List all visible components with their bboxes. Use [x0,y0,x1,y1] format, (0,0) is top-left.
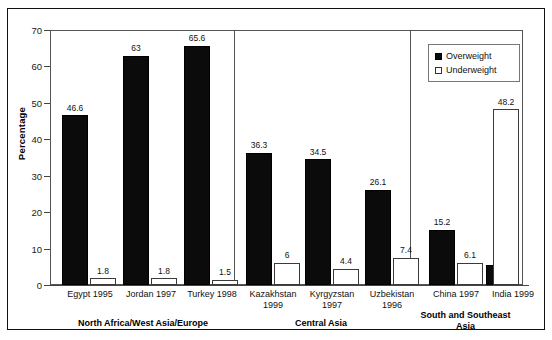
y-tick-label-20: 20 [16,208,42,218]
bar-value-overweight-turkey-1998: 65.6 [177,34,217,43]
bar-value-underweight-kyrgyzstan-1997: 4.4 [326,257,366,266]
x-axis-line [44,285,529,286]
bar-underweight-india-1999 [493,109,519,285]
legend-label-underweight: Underweight [446,66,497,75]
bar-value-overweight-uzbekistan-1996: 26.1 [358,178,398,187]
legend-swatch-underweight-icon [435,67,442,74]
bar-value-underweight-jordan-1997: 1.8 [144,267,184,276]
bar-value-overweight-kyrgyzstan-1997: 34.5 [298,148,338,157]
y-tick-label-70: 70 [16,26,42,36]
bar-underweight-egypt-1995 [90,278,116,285]
bar-value-underweight-india-1999: 48.2 [486,98,526,107]
bar-underweight-turkey-1998 [212,280,238,286]
legend-item-overweight: Overweight [435,49,513,63]
bar-value-underweight-turkey-1998: 1.5 [205,268,245,277]
bar-underweight-jordan-1997 [151,278,177,285]
bar-overweight-jordan-1997 [123,56,149,286]
group-label-line2: Asia [398,321,533,332]
y-axis-title: Percentage [16,89,27,179]
bar-value-underweight-uzbekistan-1996: 7.4 [386,246,426,255]
bar-underweight-china-1997 [457,263,483,285]
legend-swatch-overweight-icon [435,53,442,60]
bar-value-overweight-kazakhstan-1999: 36.3 [239,141,279,150]
y-tick-label-10: 10 [16,245,42,255]
panel-divider-1 [234,31,235,284]
chart-figure: 70 60 50 40 30 20 10 0 Percentage 46.6 1… [0,0,552,340]
bar-overweight-kazakhstan-1999 [246,153,272,285]
group-label-south-and-southeast-asia: South and Southeast Asia [398,310,533,332]
bar-value-overweight-jordan-1997: 63 [116,44,156,53]
bar-underweight-kazakhstan-1999 [274,263,300,285]
legend-label-overweight: Overweight [446,52,492,61]
x-category-label-line2: 1996 [351,300,433,311]
bar-underweight-kyrgyzstan-1997 [333,269,359,285]
bar-overweight-uzbekistan-1996 [365,190,391,285]
y-tick-label-0: 0 [16,281,42,291]
legend-item-underweight: Underweight [435,63,513,77]
y-tick-label-60: 60 [16,62,42,72]
bar-overweight-egypt-1995 [62,115,88,285]
bar-underweight-uzbekistan-1996 [393,258,419,285]
group-label-line1: Central Asia [251,318,391,329]
bar-value-overweight-egypt-1995: 46.6 [55,104,95,113]
group-label-line1: South and Southeast [398,310,533,321]
bar-overweight-kyrgyzstan-1997 [305,159,331,285]
group-label-central-asia: Central Asia [251,318,391,329]
bar-overweight-turkey-1998 [184,46,210,285]
group-label-north-africa-west-asia-europe: North Africa/West Asia/Europe [48,318,238,329]
group-label-line1: North Africa/West Asia/Europe [48,318,238,329]
x-category-label-line1: India 1999 [472,289,552,300]
bar-value-underweight-egypt-1995: 1.8 [83,267,123,276]
x-category-label-india-1999: India 1999 [472,289,552,300]
bar-value-overweight-china-1997: 15.2 [422,218,462,227]
chart-legend: Overweight Underweight [428,44,520,82]
bar-value-underweight-kazakhstan-1999: 6 [267,251,307,260]
